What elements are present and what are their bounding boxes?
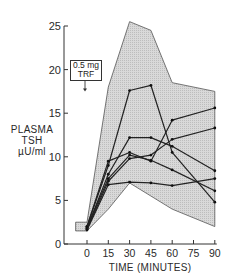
data-point (171, 145, 174, 148)
data-point (213, 169, 216, 172)
data-point (171, 119, 174, 122)
annotation-arrowhead (83, 88, 87, 91)
x-axis-label: TIME (MINUTES) (90, 262, 210, 273)
data-point (171, 168, 174, 171)
x-tick-label: 60 (166, 247, 178, 259)
data-point (86, 229, 89, 232)
data-point (171, 184, 174, 187)
data-point (213, 189, 216, 192)
x-tick-label: 15 (102, 247, 114, 259)
y-axis-label: PLASMA TSH µU/ml (6, 124, 58, 157)
x-tick-label: 75 (188, 247, 200, 259)
x-tick-label: 45 (145, 247, 157, 259)
data-point (150, 136, 153, 139)
annotation-box: 0.5 mg TRF (70, 60, 102, 81)
y-tick-label: 25 (49, 20, 61, 32)
y-tick-label: 5 (55, 194, 61, 206)
data-point (128, 89, 131, 92)
y-axis-label-line1: PLASMA (6, 124, 58, 135)
data-point (107, 177, 110, 180)
data-point (150, 182, 153, 185)
data-point (213, 177, 216, 180)
y-tick-label: 20 (49, 64, 61, 76)
data-point (213, 107, 216, 110)
y-axis-label-line3: µU/ml (6, 146, 58, 157)
data-point (107, 173, 110, 176)
data-point (213, 127, 216, 130)
x-tick-label: 0 (84, 247, 90, 259)
data-point (128, 151, 131, 154)
data-point (107, 183, 110, 186)
data-point (150, 84, 153, 87)
data-point (128, 181, 131, 184)
data-point (150, 159, 153, 162)
data-point (128, 154, 131, 157)
y-tick-label: 0 (55, 238, 61, 250)
data-point (107, 160, 110, 163)
x-tick-label: 30 (124, 247, 136, 259)
x-tick-label: 90 (209, 247, 221, 259)
data-point (128, 136, 131, 139)
data-point (171, 138, 174, 141)
data-point (171, 151, 174, 154)
data-point (150, 154, 153, 157)
data-point (213, 201, 216, 204)
data-point (128, 157, 131, 160)
annotation-drug: TRF (71, 70, 101, 79)
y-tick-label: 15 (49, 107, 61, 119)
y-axis-label-line2: TSH (6, 135, 58, 146)
